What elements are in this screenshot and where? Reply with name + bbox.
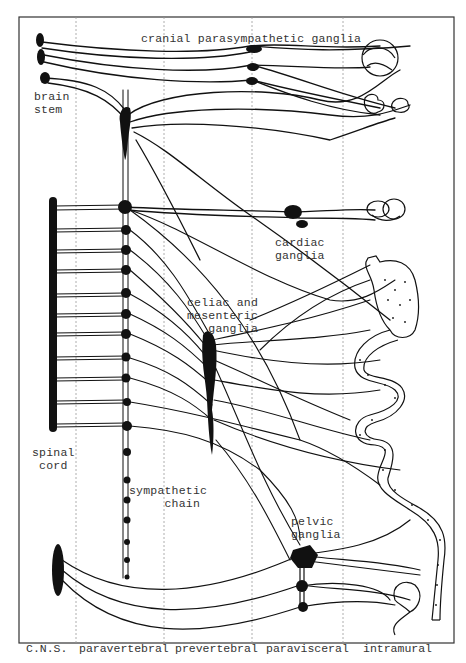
spinal-rami (55, 205, 127, 427)
sacral-cord (52, 544, 64, 596)
label-spinal-cord: spinal cord (32, 446, 75, 472)
column-paravertebral: paravertebral (79, 642, 169, 655)
chain-ganglia (118, 200, 132, 580)
celiac-ganglia (202, 331, 216, 455)
brain-stem-nuclei (36, 33, 50, 84)
cardiac-ganglia (284, 205, 308, 228)
stomach-organ (366, 256, 419, 338)
column-intramural: intramural (363, 642, 432, 655)
label-sympathetic-chain: sympathetic chain (129, 484, 207, 510)
label-celiac-ganglia: celiac and mesenteric ganglia (187, 296, 258, 335)
column-paravisceral: paravisceral (266, 642, 349, 655)
label-cardiac-ganglia: cardiac ganglia (275, 236, 325, 262)
cervical-sympathetic-fibers (128, 70, 410, 320)
label-pelvic-ganglia: pelvic ganglia (291, 515, 341, 541)
spinal-cord (49, 197, 57, 432)
cardiac-fibers (125, 207, 375, 220)
column-prevertebral: prevertebral (175, 642, 258, 655)
label-brain-stem: brain stem (34, 90, 70, 116)
column-cns: C.N.S. (26, 642, 67, 655)
gut-stipple (359, 279, 441, 606)
organs (355, 40, 445, 635)
superior-cervical-ganglion (120, 107, 131, 160)
salivary-gland (364, 94, 384, 113)
label-cranial-ganglia: cranial parasympathetic ganglia (141, 32, 361, 45)
cranial-nerves (42, 42, 410, 120)
pelvic-fibers (62, 520, 420, 629)
